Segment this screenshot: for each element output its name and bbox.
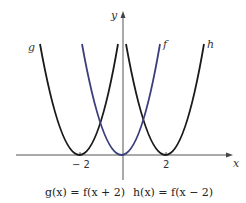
y-axis-label: y bbox=[110, 9, 118, 22]
tick-label-neg2: − 2 bbox=[72, 159, 90, 170]
curve-h bbox=[126, 44, 204, 155]
y-axis-arrow-icon bbox=[121, 11, 126, 18]
curve-label-g: g bbox=[28, 41, 35, 54]
tick-label-2: 2 bbox=[163, 159, 169, 170]
x-axis-label: x bbox=[233, 157, 240, 170]
x-axis-arrow-icon bbox=[226, 153, 233, 158]
curve-label-f: f bbox=[162, 38, 169, 51]
graph: y x g f h − 2 2 g(x) = f(x + 2) h(x) = f… bbox=[0, 0, 246, 203]
caption-h: h(x) = f(x − 2) bbox=[133, 186, 213, 199]
curve-label-h: h bbox=[207, 38, 214, 51]
caption-g: g(x) = f(x + 2) bbox=[45, 186, 125, 199]
